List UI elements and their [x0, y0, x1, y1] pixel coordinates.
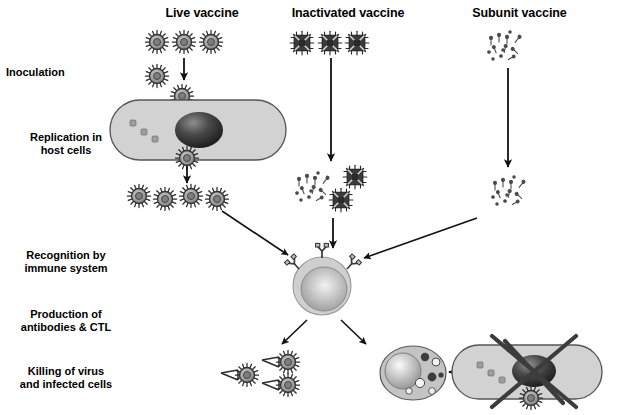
- immune-cell: [284, 243, 361, 315]
- antibody-bound-virion: [262, 350, 300, 373]
- inactivated-virion: [318, 31, 342, 55]
- live-virion: [145, 30, 168, 53]
- live-virion: [199, 30, 222, 53]
- budding-virion: [519, 386, 542, 409]
- arrow-icon: [364, 218, 477, 258]
- released-virion-group: [127, 184, 228, 210]
- antibody-receptor: [316, 243, 329, 258]
- live-virion-group-top: [145, 30, 222, 53]
- stage-label-replication: Replication in host cells: [6, 131, 126, 157]
- stage-label-inoculation: Inoculation: [6, 66, 126, 79]
- host-cell: [110, 100, 286, 160]
- arrow-icon: [341, 320, 366, 344]
- column-header-subunit: Subunit vaccine: [447, 6, 592, 20]
- inactivated-debris-group: [296, 165, 367, 212]
- diagram-canvas: [0, 0, 617, 415]
- inactivated-vaccine-column: [290, 31, 369, 248]
- inactivated-virion: [343, 165, 367, 189]
- inactivated-virion: [345, 31, 369, 55]
- antibody-bound-virion: [262, 373, 300, 396]
- stage-label-killing: Killing of virus and infected cells: [2, 365, 130, 391]
- inactivated-virion: [329, 188, 353, 212]
- live-vaccine-column: [110, 30, 288, 255]
- arrow-icon: [282, 320, 307, 344]
- released-virion: [153, 187, 176, 210]
- neutralized-virion-group: [221, 350, 300, 396]
- b-cell-nucleus: [301, 267, 347, 311]
- live-virion-entering: [145, 64, 168, 87]
- arrow-icon: [222, 211, 288, 255]
- subunit-fragment: [296, 172, 330, 202]
- subunit-vaccine-column: [364, 31, 526, 258]
- live-virion: [172, 30, 195, 53]
- antibody-bound-virion: [221, 363, 259, 386]
- stage-label-recognition: Recognition by immune system: [2, 249, 130, 275]
- host-cell-nucleus: [175, 112, 223, 148]
- stage-label-production: Production of antibodies & CTL: [2, 308, 130, 334]
- subunit-fragment: [488, 31, 522, 61]
- inactivated-virion-group-top: [290, 31, 369, 55]
- column-header-live: Live vaccine: [137, 6, 267, 20]
- vaccine-immunity-diagram: Live vaccine Inactivated vaccine Subunit…: [0, 0, 617, 415]
- released-virion: [205, 187, 228, 210]
- subunit-fragment: [492, 176, 526, 206]
- released-virion: [127, 184, 150, 207]
- infected-cell-killed: [452, 336, 602, 410]
- column-header-inactivated: Inactivated vaccine: [268, 6, 428, 20]
- inactivated-virion: [290, 31, 314, 55]
- released-virion: [179, 184, 202, 207]
